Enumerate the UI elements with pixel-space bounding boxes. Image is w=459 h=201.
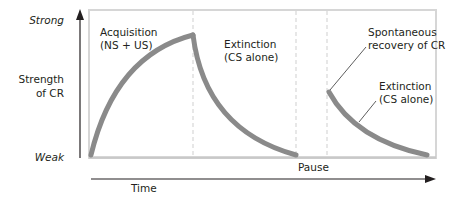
extinction-2-pointer: [359, 101, 376, 122]
time-label: Time: [130, 182, 157, 194]
spontaneous-recovery-label-line1: Spontaneous: [368, 26, 437, 38]
extinction-2-label-line2: (CS alone): [379, 93, 433, 105]
extinction-label-line2: (CS alone): [224, 51, 278, 63]
y-axis-title-line1: Strength: [19, 73, 64, 85]
acquisition-label-line1: Acquisition: [100, 26, 158, 38]
strong-label: Strong: [29, 14, 64, 26]
extinction-2-label-line1: Extinction: [379, 80, 431, 92]
pause-label: Pause: [298, 161, 329, 173]
y-axis-title-line2: of CR: [36, 87, 64, 99]
y-axis-arrowhead-icon: [76, 9, 84, 20]
spontaneous-recovery-label-line2: recovery of CR: [368, 39, 445, 51]
weak-label: Weak: [35, 151, 65, 163]
spontaneous-recovery-pointer: [330, 47, 366, 90]
conditioning-diagram: Strong Strength of CR Weak Time Pause Ac…: [0, 0, 459, 201]
time-axis-arrowhead-icon: [425, 175, 436, 183]
acquisition-curve: [91, 35, 193, 155]
extinction-label-line1: Extinction: [224, 38, 276, 50]
acquisition-label-line2: (NS + US): [100, 39, 153, 51]
